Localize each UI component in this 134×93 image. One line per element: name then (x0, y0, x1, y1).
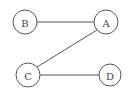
node-c-label: C (24, 71, 32, 82)
node-a: A (94, 10, 118, 34)
node-a-label: A (101, 18, 110, 29)
node-b-label: B (21, 18, 28, 29)
node-d-label: D (106, 71, 114, 82)
node-d: D (99, 64, 121, 86)
graph-diagram: A B C D (0, 0, 134, 93)
node-c: C (16, 63, 40, 87)
node-b: B (13, 10, 37, 34)
edge-a-c (37, 30, 97, 67)
